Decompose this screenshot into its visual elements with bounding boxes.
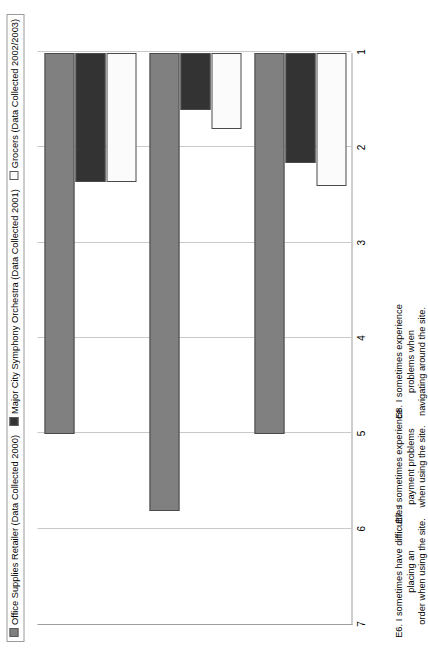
legend-item-symphony-orchestra: Major City Symphony Orchestra (Data Coll…: [9, 189, 20, 426]
bar-group: [44, 53, 136, 624]
legend-label-grocers: Grocers (Data Collected 2002/2003): [9, 19, 19, 168]
legend-label-office-supplies-retailer: Office Supplies Retailer (Data Collected…: [9, 435, 19, 625]
bar: [75, 53, 105, 182]
bar: [149, 53, 179, 511]
axis-tick-label: 1: [355, 40, 366, 64]
legend-swatch-gray-icon: [9, 628, 18, 637]
category-label-line: E8. I sometimes experience problems when: [393, 287, 416, 437]
legend-swatch-white-icon: [9, 171, 18, 180]
bar: [254, 53, 284, 434]
bar: [211, 53, 241, 129]
axis-tick-label: 3: [355, 231, 366, 255]
bar-group: [254, 53, 346, 624]
axis-tick-label: 2: [355, 135, 366, 159]
chart-legend: Office Supplies Retailer (Data Collected…: [6, 14, 24, 642]
plot-area: 7654321E6. I sometimes have difficulties…: [37, 53, 352, 625]
bar: [106, 53, 136, 182]
axis-tick-label: 5: [355, 421, 366, 445]
legend-item-grocers: Grocers (Data Collected 2002/2003): [9, 19, 20, 180]
legend-label-symphony-orchestra: Major City Symphony Orchestra (Data Coll…: [9, 189, 19, 414]
axis-tick-label: 7: [355, 612, 366, 636]
category-label: E8. I sometimes experience problems when…: [393, 287, 428, 437]
bar: [44, 53, 74, 434]
gridline: [37, 51, 351, 52]
legend-item-office-supplies-retailer: Office Supplies Retailer (Data Collected…: [9, 435, 20, 637]
axis-tick-label: 4: [355, 326, 366, 350]
legend-swatch-dark-icon: [9, 417, 18, 426]
bar: [180, 53, 210, 110]
category-label-line: navigating around the site.: [416, 287, 428, 437]
bar-group: [149, 53, 241, 624]
bar: [316, 53, 346, 186]
axis-tick-label: 6: [355, 517, 366, 541]
bar: [285, 53, 315, 163]
